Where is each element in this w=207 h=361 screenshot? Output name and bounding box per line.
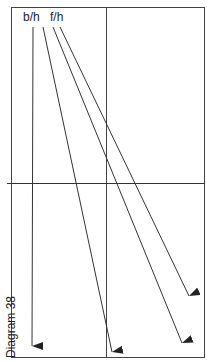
arrow-bh-diagonal <box>43 27 112 352</box>
label-fh: f/h <box>50 10 63 24</box>
arrow-fh-diagonal-1 <box>53 27 182 343</box>
label-bh: b/h <box>23 10 40 24</box>
diagram-caption: Diagram 38 <box>4 292 18 361</box>
arrow-fh-diagonal-2 <box>60 27 189 296</box>
arrow-bh-vertical <box>32 27 33 346</box>
diagram-frame <box>12 8 205 358</box>
diagram-canvas <box>0 0 207 361</box>
